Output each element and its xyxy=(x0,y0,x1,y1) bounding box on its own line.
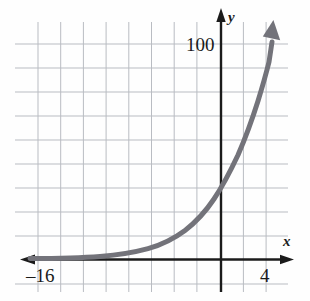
y-tick-label-100: 100 xyxy=(186,35,215,54)
exponential-curve xyxy=(30,20,280,259)
curve-arrowhead xyxy=(263,20,280,40)
grid-vertical-lines xyxy=(38,22,266,292)
y-axis-label: y xyxy=(228,10,235,25)
y-axis-arrow-up xyxy=(216,8,225,22)
x-axis-arrow-right xyxy=(280,255,294,264)
x-axis-label: x xyxy=(283,234,291,249)
x-tick-label-4: 4 xyxy=(260,266,270,285)
plot-canvas xyxy=(0,0,310,301)
y-axis xyxy=(216,8,225,292)
x-tick-label-minus-16: –16 xyxy=(26,266,55,285)
graph-figure: y x 100 –16 4 xyxy=(0,0,310,301)
